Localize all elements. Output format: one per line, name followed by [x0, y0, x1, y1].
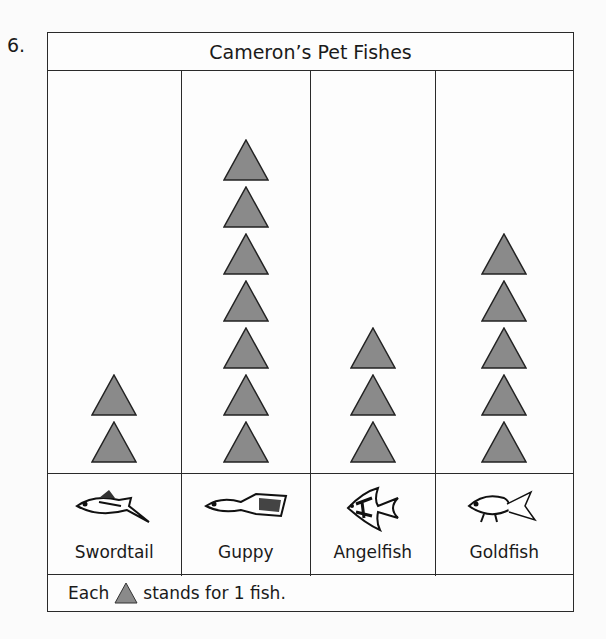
pictograph-table: Cameron’s Pet Fishes SwordtailGuppyAngel…: [47, 32, 574, 612]
triangle-icon: [91, 374, 137, 416]
category-label: Goldfish: [470, 542, 539, 562]
triangle-icon: [350, 421, 396, 463]
column-swordtail: Swordtail: [48, 71, 182, 576]
goldfish-icon: [459, 484, 549, 534]
category-label-area: Angelfish: [311, 474, 435, 576]
swordtail-fish-icon: [69, 484, 159, 534]
key-suffix: stands for 1 fish.: [143, 583, 286, 603]
chart-title: Cameron’s Pet Fishes: [48, 33, 573, 71]
triangle-stack: [182, 71, 311, 474]
triangle-icon: [223, 327, 269, 369]
pictograph-columns: SwordtailGuppyAngelfishGoldfish: [48, 71, 573, 576]
category-label-area: Swordtail: [48, 474, 181, 576]
column-goldfish: Goldfish: [436, 71, 573, 576]
triangle-icon: [350, 374, 396, 416]
triangle-stack: [311, 71, 435, 474]
triangle-stack: [48, 71, 181, 474]
triangle-icon: [481, 421, 527, 463]
triangle-icon: [481, 374, 527, 416]
legend-key: Each stands for 1 fish.: [48, 574, 573, 611]
category-label: Swordtail: [75, 542, 154, 562]
triangle-icon: [223, 139, 269, 181]
triangle-icon: [223, 374, 269, 416]
column-angelfish: Angelfish: [311, 71, 436, 576]
question-number: 6.: [7, 34, 25, 56]
guppy-fish-icon: [201, 484, 291, 534]
category-label: Guppy: [218, 542, 274, 562]
column-guppy: Guppy: [182, 71, 312, 576]
triangle-icon: [223, 186, 269, 228]
triangle-icon: [223, 233, 269, 275]
category-label: Angelfish: [333, 542, 412, 562]
triangle-icon: [481, 280, 527, 322]
triangle-icon: [481, 233, 527, 275]
category-label-area: Guppy: [182, 474, 311, 576]
angelfish-icon: [328, 484, 418, 534]
triangle-icon: [91, 421, 137, 463]
triangle-icon: [350, 327, 396, 369]
triangle-icon: [223, 280, 269, 322]
category-label-area: Goldfish: [436, 474, 573, 576]
key-prefix: Each: [68, 583, 109, 603]
triangle-stack: [436, 71, 573, 474]
triangle-icon: [481, 327, 527, 369]
triangle-icon: [223, 421, 269, 463]
triangle-icon: [114, 582, 138, 604]
